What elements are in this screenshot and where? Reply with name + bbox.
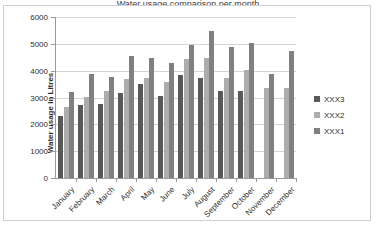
bar [269,74,274,178]
bar-group [196,17,216,178]
bar [58,116,63,178]
y-tick-label-0: 0 [14,174,48,183]
bar [158,96,163,178]
legend-swatch-icon [314,128,320,134]
bar-group [156,17,176,178]
legend-label: XXX2 [324,111,344,120]
y-tick-3000 [51,98,56,99]
bar [209,31,214,178]
bar-group [236,17,256,178]
bar-series-container [56,17,296,178]
y-tick-label-4000: 4000 [14,66,48,75]
bar [89,74,94,178]
y-axis-title: Water usage in Litres [46,73,55,154]
chart-frame: Water usage in Litres 010002000300040005… [3,5,371,221]
bar [238,91,243,178]
y-tick-0 [51,178,56,179]
legend-label: XXX1 [324,127,344,136]
y-tick-label-1000: 1000 [14,147,48,156]
legend-item-xxx1[interactable]: XXX1 [314,123,370,139]
legend-label: XXX3 [324,95,344,104]
bar [178,75,183,178]
bar [198,78,203,178]
bar [149,58,154,178]
bar [264,88,269,178]
y-tick-label-6000: 6000 [14,13,48,22]
bar [249,43,254,178]
bar [218,91,223,178]
bar [204,58,209,178]
bar [224,78,229,178]
y-tick-2000 [51,124,56,125]
legend-swatch-icon [314,112,320,118]
legend-item-xxx2[interactable]: XXX2 [314,107,370,123]
bar-group [96,17,116,178]
chart-legend: XXX3XXX2XXX1 [314,91,370,139]
bar-group [76,17,96,178]
bar-group [276,17,296,178]
bar-group [216,17,236,178]
y-tick-1000 [51,151,56,152]
bar [129,56,134,178]
bar [124,79,129,178]
bar-group [176,17,196,178]
bar [189,45,194,178]
bar [64,107,69,178]
legend-swatch-icon [314,96,320,102]
bar [229,47,234,178]
bar [169,63,174,178]
bar [98,104,103,178]
bar [138,84,143,178]
bar [144,78,149,178]
bar [284,88,289,178]
plot-area: 0100020003000400050006000 [56,17,296,178]
y-tick-6000 [51,17,56,18]
bar [244,70,249,178]
bar-group [56,17,76,178]
bar [104,91,109,178]
legend-item-xxx3[interactable]: XXX3 [314,91,370,107]
bar [78,105,83,178]
y-tick-5000 [51,44,56,45]
y-tick-label-2000: 2000 [14,120,48,129]
bar [289,51,294,178]
bar-group [256,17,276,178]
bar-group [116,17,136,178]
bar [164,82,169,178]
bar-group [136,17,156,178]
bar [118,93,123,178]
bar [184,59,189,178]
y-tick-label-3000: 3000 [14,93,48,102]
bar [69,92,74,178]
y-tick-4000 [51,71,56,72]
y-tick-label-5000: 5000 [14,39,48,48]
